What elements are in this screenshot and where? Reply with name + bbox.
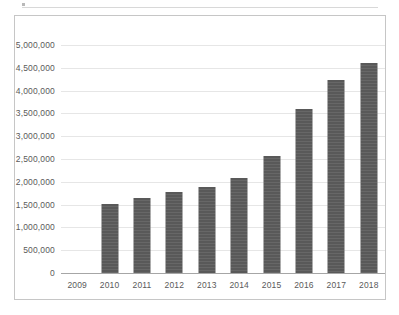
y-axis-tick-label: 5,000,000 xyxy=(16,40,55,50)
x-axis-tick-label: 2018 xyxy=(359,280,379,290)
bar-slot: 2018 xyxy=(353,45,385,273)
document-separator-rule xyxy=(22,7,378,8)
bar xyxy=(198,187,215,273)
x-axis-tick-label: 2013 xyxy=(197,280,217,290)
document-rule-tick xyxy=(22,3,25,6)
bar-slot: 2011 xyxy=(126,45,158,273)
plot-area: 0500,0001,000,0001,500,0002,000,0002,500… xyxy=(61,45,385,273)
x-axis-tick-label: 2015 xyxy=(262,280,282,290)
y-axis-tick-label: 1,500,000 xyxy=(16,200,55,210)
chart-container: 0500,0001,000,0001,500,0002,000,0002,500… xyxy=(14,15,386,300)
bar-slot: 2015 xyxy=(255,45,287,273)
x-axis-tick-label: 2011 xyxy=(133,280,152,290)
x-axis-tick-label: 2012 xyxy=(165,280,185,290)
axis-baseline: 0 xyxy=(61,273,385,274)
bar-slot: 2012 xyxy=(158,45,190,273)
bar-slot: 2017 xyxy=(320,45,352,273)
x-axis-tick-label: 2017 xyxy=(327,280,347,290)
bar-slot: 2013 xyxy=(191,45,223,273)
y-axis-tick-label: 0 xyxy=(50,268,55,278)
bar-slot: 2010 xyxy=(93,45,125,273)
bar xyxy=(166,192,183,273)
bar-slot: 2009 xyxy=(61,45,93,273)
bars-group: 2009201020112012201320142015201620172018 xyxy=(61,45,385,273)
y-axis-tick-label: 1,000,000 xyxy=(16,222,55,232)
x-axis-tick-label: 2016 xyxy=(294,280,314,290)
y-axis-tick-label: 500,000 xyxy=(23,245,55,255)
bar xyxy=(231,178,248,273)
bar xyxy=(101,204,118,273)
bar xyxy=(295,109,312,273)
y-axis-tick-label: 2,000,000 xyxy=(16,177,55,187)
bar-slot: 2016 xyxy=(288,45,320,273)
bar xyxy=(133,198,150,273)
bar-slot: 2014 xyxy=(223,45,255,273)
x-axis-tick-label: 2009 xyxy=(67,280,87,290)
y-axis-tick-label: 3,500,000 xyxy=(16,108,55,118)
bar xyxy=(328,80,345,273)
bar xyxy=(360,63,377,273)
y-axis-tick-label: 3,000,000 xyxy=(16,131,55,141)
x-axis-tick-label: 2014 xyxy=(229,280,249,290)
x-axis-tick-label: 2010 xyxy=(100,280,120,290)
bar xyxy=(263,156,280,273)
y-axis-tick-label: 4,500,000 xyxy=(16,63,55,73)
y-axis-tick-label: 4,000,000 xyxy=(16,86,55,96)
y-axis-tick-label: 2,500,000 xyxy=(16,154,55,164)
